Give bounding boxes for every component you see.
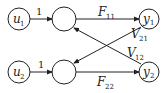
u1-gain-label: 1 <box>36 6 42 17</box>
svg-text:y: y <box>142 12 150 26</box>
node-y2: y 2 <box>139 62 159 82</box>
svg-text:1: 1 <box>150 19 154 27</box>
svg-text:12: 12 <box>135 54 144 62</box>
summing-node-1 <box>52 7 76 31</box>
V21-label: V 21 <box>131 27 148 43</box>
node-u2: u 2 <box>8 61 30 83</box>
svg-text:21: 21 <box>139 35 148 43</box>
node-y1: y 1 <box>139 9 159 29</box>
svg-text:2: 2 <box>20 73 24 81</box>
F11-label: F 11 <box>97 5 115 21</box>
summing-node-2 <box>52 60 76 84</box>
svg-text:1: 1 <box>20 20 24 28</box>
V12-label: V 12 <box>127 46 144 62</box>
svg-text:2: 2 <box>150 72 154 80</box>
svg-text:22: 22 <box>105 83 114 91</box>
F22-label: F 22 <box>96 75 114 91</box>
svg-text:y: y <box>142 65 150 79</box>
svg-text:11: 11 <box>106 13 115 21</box>
node-u1: u 1 <box>8 8 30 30</box>
block-diagram: u 1 1 F 11 y 1 V 21 V 12 u 2 1 F 22 y 2 <box>0 0 166 93</box>
u2-gain-label: 1 <box>38 59 44 70</box>
